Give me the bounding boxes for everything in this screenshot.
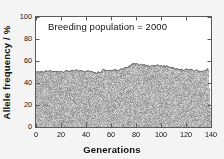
x-axis-title: Generations [0, 144, 224, 155]
x-tick-label: 120 [180, 131, 192, 138]
x-tick-label: 20 [57, 131, 65, 138]
x-axis-tick-labels: 020406080100120140 [0, 0, 224, 159]
chart-figure: Allele frequency / % 020406080100 Breedi… [0, 0, 224, 159]
x-tick-label: 40 [82, 131, 90, 138]
x-tick-label: 140 [205, 131, 217, 138]
x-tick-label: 0 [34, 131, 38, 138]
x-tick-label: 100 [155, 131, 167, 138]
x-tick-label: 80 [132, 131, 140, 138]
x-tick-label: 60 [107, 131, 115, 138]
